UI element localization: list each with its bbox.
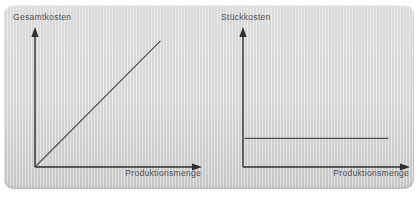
x-axis-label: Produktionsmenge [125,168,201,178]
y-axis-label: Gesamtkosten [13,12,71,22]
x-axis-label: Produktionsmenge [333,168,409,178]
y-axis-label: Stückkosten [221,12,271,22]
gesamtkosten-plot [10,10,206,186]
stueckkosten-plot [218,10,414,186]
chart-stueckkosten: Stückkosten Produktionsmenge [218,10,414,186]
chart-gesamtkosten: Gesamtkosten Produktionsmenge [10,10,206,186]
figure-panel: Gesamtkosten Produktionsmenge Stückkoste… [4,5,414,189]
